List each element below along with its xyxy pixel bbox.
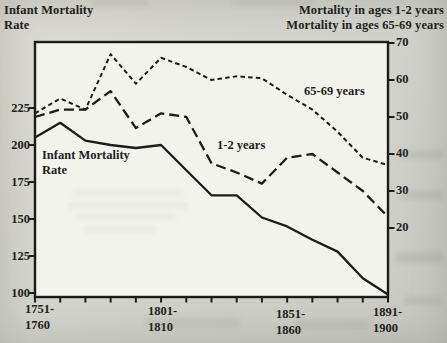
left-axis-tick-label-100: 100 — [1, 286, 30, 301]
series-label-infant-mortality-rate: Infant Mortality Rate — [42, 148, 130, 178]
series-label-1-2-years: 1-2 years — [217, 138, 265, 153]
scanned-chart-page: Infant Mortality Rate Mortality in ages … — [0, 0, 447, 343]
left-axis-tick-label-125: 125 — [1, 249, 30, 264]
left-axis-tick-label-200: 200 — [1, 138, 30, 153]
x-axis-tick-label-1851-1860: 1851- 1860 — [276, 306, 305, 338]
right-axis-tick-label-30: 30 — [396, 183, 430, 198]
right-axis-tick-label-40: 40 — [396, 146, 430, 161]
x-axis-tick-label-1891-1900: 1891- 1900 — [373, 304, 402, 336]
x-axis-tick-label-1751-1760: 1751- 1760 — [25, 301, 54, 333]
right-axis-tick-label-20: 20 — [396, 220, 430, 235]
left-axis-tick-label-150: 150 — [1, 212, 30, 227]
right-axis-tick-label-70: 70 — [396, 35, 430, 50]
right-axis-tick-label-60: 60 — [396, 72, 430, 87]
right-axis-tick-label-50: 50 — [396, 109, 430, 124]
x-axis-tick-label-1801-1810: 1801- 1810 — [148, 303, 177, 335]
series-label-65-69-years: 65-69 years — [304, 84, 365, 99]
left-axis-tick-label-225: 225 — [1, 101, 30, 116]
left-axis-tick-label-175: 175 — [1, 175, 30, 190]
